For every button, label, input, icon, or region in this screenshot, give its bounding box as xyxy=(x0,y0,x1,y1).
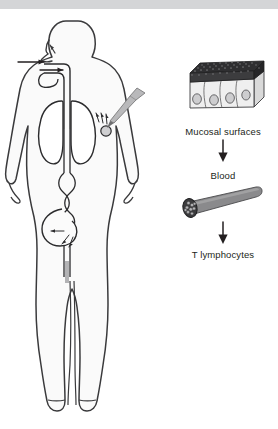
epithelium-nucleus-2 xyxy=(210,95,219,105)
arrow-blood-to-tcells xyxy=(218,222,227,244)
flow-panel: Mucosal surfaces Blood T lymphocytes xyxy=(168,9,278,429)
arrow-mucosa-to-blood xyxy=(218,140,227,162)
injection-depot-circle xyxy=(101,126,111,136)
rectal-mucosa-shade xyxy=(65,261,69,283)
flow-graphics xyxy=(168,9,278,429)
epithelium-nucleus-1 xyxy=(193,94,202,104)
label-mucosal-surfaces: Mucosal surfaces xyxy=(168,126,278,137)
epithelium-nucleus-3 xyxy=(226,93,235,103)
blood-vessel-icon xyxy=(181,187,262,219)
oral-intake-arrow-upper xyxy=(18,60,44,65)
figure-root: Mucosal surfaces Blood T lymphocytes xyxy=(0,0,278,429)
body-panel xyxy=(0,9,170,429)
hand-right-outline xyxy=(9,183,20,203)
human-body-silhouette xyxy=(0,9,170,429)
epithelium-block-icon xyxy=(190,61,264,108)
label-blood: Blood xyxy=(168,170,278,181)
epithelium-nucleus-4 xyxy=(242,90,250,100)
label-t-lymphocytes: T lymphocytes xyxy=(168,249,278,260)
hand-left-outline xyxy=(124,183,135,203)
top-gray-band xyxy=(0,0,278,9)
